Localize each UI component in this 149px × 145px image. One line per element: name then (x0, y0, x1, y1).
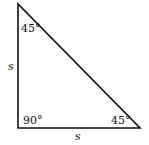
side-left-label: s (8, 60, 14, 73)
angle-top-label: 45° (21, 22, 41, 35)
angle-right-angle-label: 90° (23, 114, 43, 127)
triangle-diagram: 45° 90° 45° s s (0, 0, 149, 145)
angle-bottom-right-label: 45° (111, 114, 131, 127)
side-bottom-label: s (75, 130, 81, 143)
